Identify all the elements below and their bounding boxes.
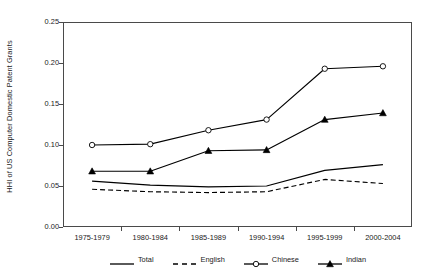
x-tick-mark [121, 227, 122, 231]
y-tick-mark [59, 186, 63, 187]
line-chart: HHI of US Computer Domestic Patent Grant… [0, 0, 431, 279]
legend-item-chinese[interactable]: Chinese [243, 255, 299, 265]
x-tick-mark [354, 227, 355, 231]
y-tick-label: 0.15 [19, 100, 59, 108]
legend-swatch-english-icon [172, 255, 198, 265]
y-tick-mark [59, 145, 63, 146]
y-axis-title: HHI of US Computer Domestic Patent Grant… [2, 9, 18, 224]
legend-label: Indian [346, 255, 366, 265]
y-tick-mark [59, 63, 63, 64]
y-tick-label: 0.20 [19, 59, 59, 67]
y-tick-mark [59, 22, 63, 23]
y-tick-label: 0.25 [19, 18, 59, 26]
legend-item-english[interactable]: English [172, 255, 225, 265]
y-tick-mark [59, 227, 63, 228]
y-tick-label: 0.10 [19, 141, 59, 149]
chart-legend: TotalEnglishChineseIndian [63, 252, 412, 268]
y-tick-label: 0.05 [19, 182, 59, 190]
x-tick-mark [238, 227, 239, 231]
legend-label: Chinese [272, 255, 299, 265]
x-tick-label: 2000-2004 [348, 233, 418, 242]
x-tick-mark [179, 227, 180, 231]
x-tick-mark [296, 227, 297, 231]
legend-swatch-indian-icon [317, 255, 343, 265]
y-tick-label: 0.00 [19, 223, 59, 231]
legend-item-total[interactable]: Total [109, 255, 154, 265]
legend-swatch-total-icon [109, 255, 135, 265]
legend-swatch-chinese-icon [243, 255, 269, 265]
legend-label: Total [138, 255, 154, 265]
data-point-marker [253, 261, 258, 266]
legend-item-indian[interactable]: Indian [317, 255, 366, 265]
legend-label: English [201, 255, 225, 265]
plot-area [63, 22, 412, 227]
y-tick-mark [59, 104, 63, 105]
